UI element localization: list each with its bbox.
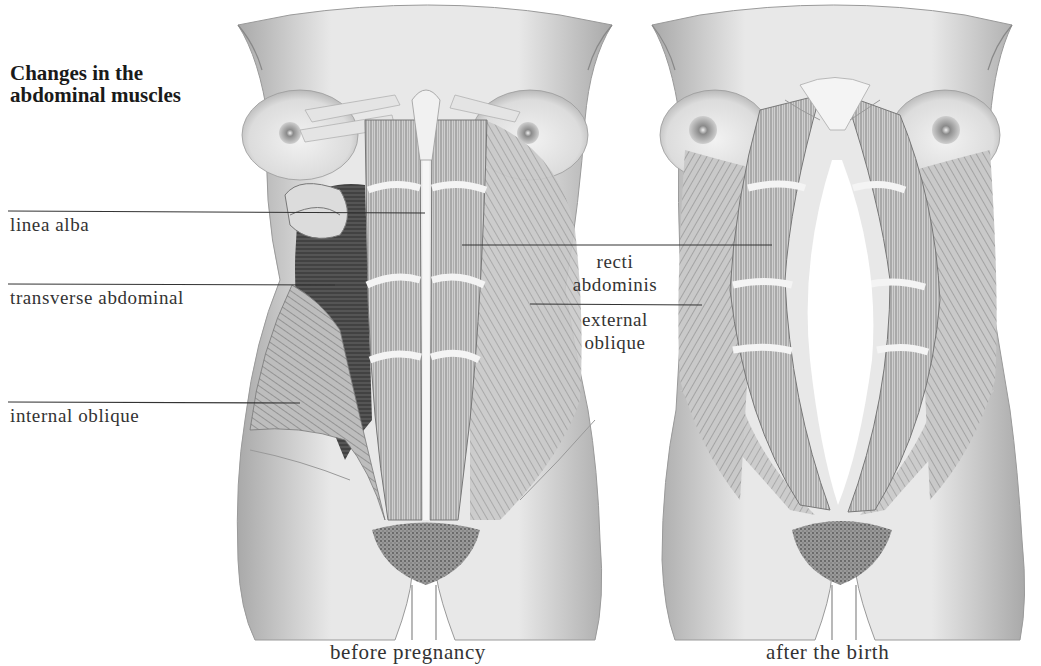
label-external-line-2: oblique xyxy=(560,331,670,354)
figure-before-pregnancy xyxy=(237,5,612,640)
label-recti-line-2: abdominis xyxy=(560,273,670,296)
label-linea-alba: linea alba xyxy=(10,214,89,236)
title-line-1: Changes in the xyxy=(10,62,181,84)
diagram-title: Changes in the abdominal muscles xyxy=(10,62,181,106)
label-external-oblique: external oblique xyxy=(560,308,670,354)
caption-after-the-birth: after the birth xyxy=(766,640,889,665)
caption-before-pregnancy: before pregnancy xyxy=(330,640,486,665)
label-transverse-abdominal: transverse abdominal xyxy=(10,287,184,309)
title-line-2: abdominal muscles xyxy=(10,84,181,106)
label-recti-line-1: recti xyxy=(560,250,670,273)
label-external-line-1: external xyxy=(560,308,670,331)
label-internal-oblique: internal oblique xyxy=(10,405,139,427)
label-recti-abdominis: recti abdominis xyxy=(560,250,670,296)
figure-after-the-birth xyxy=(652,5,1025,640)
